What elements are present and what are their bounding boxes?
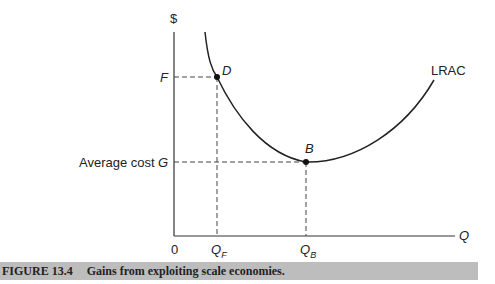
y-axis-label: $ (170, 11, 177, 26)
point-d (214, 74, 220, 80)
qf-label: QF (211, 242, 227, 260)
chart-canvas (0, 0, 495, 284)
figure: $ Q 0 F Average cost G D B LRAC QF QB FI… (0, 0, 495, 284)
g-label: G (158, 155, 168, 170)
b-label: B (305, 141, 314, 156)
qb-label: QB (300, 242, 316, 260)
figure-caption: FIGURE 13.4Gains from exploiting scale e… (0, 262, 478, 280)
origin-label: 0 (171, 242, 178, 257)
f-label: F (160, 70, 168, 85)
point-b (303, 159, 309, 165)
caption-text: Gains from exploiting scale economies. (87, 264, 285, 278)
d-label: D (222, 63, 231, 78)
caption-number: FIGURE 13.4 (2, 264, 73, 278)
lrac-curve (205, 32, 434, 162)
x-axis-label: Q (459, 228, 469, 243)
average-cost-label: Average cost (79, 155, 155, 170)
lrac-label: LRAC (431, 63, 466, 78)
